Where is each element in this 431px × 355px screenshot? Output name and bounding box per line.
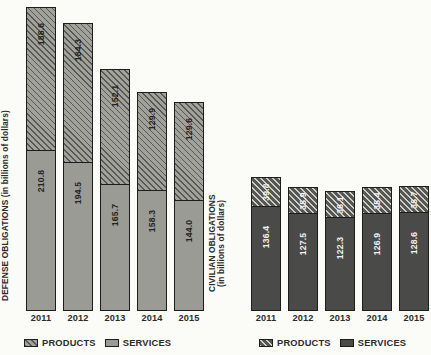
defense-legend: PRODUCTS SERVICES — [24, 336, 171, 349]
civilian-legend: PRODUCTS SERVICES — [259, 336, 406, 349]
bar-segment-services-2013: 165.7 — [100, 185, 130, 311]
bar-value-services-2013: 122.3 — [335, 237, 345, 260]
bar-value-services-2013: 165.7 — [110, 204, 120, 227]
bar-2012: 184.3194.5 — [63, 23, 93, 311]
bar-segment-services-2012: 194.5 — [63, 163, 93, 311]
defense-plot-area: 188.6210.8184.3194.5152.1165.7129.9158.3… — [26, 0, 204, 311]
bar-2011: 39.8136.4 — [251, 177, 281, 311]
bar-value-services-2015: 128.6 — [409, 232, 419, 255]
bar-segment-products-2013: 152.1 — [100, 69, 130, 185]
bar-value-products-2014: 129.9 — [147, 108, 157, 131]
bar-segment-services-2011: 210.8 — [26, 151, 56, 311]
bar-value-products-2013: 36.1 — [335, 196, 345, 214]
bar-segment-products-2015: 35.7 — [399, 186, 429, 213]
bar-segment-services-2013: 122.3 — [325, 218, 355, 311]
products-swatch-icon — [24, 339, 38, 347]
bar-value-services-2012: 194.5 — [73, 182, 83, 205]
bar-segment-services-2014: 158.3 — [137, 191, 167, 311]
x-label-2014: 2014 — [137, 313, 167, 323]
legend-label-services: SERVICES — [358, 338, 406, 348]
bar-2011: 188.6210.8 — [26, 7, 56, 311]
services-swatch-icon — [105, 339, 119, 347]
bar-value-products-2012: 35.9 — [298, 192, 308, 210]
bar-segment-products-2011: 39.8 — [251, 177, 281, 207]
legend-item-services: SERVICES — [105, 338, 171, 348]
bar-segment-products-2012: 35.9 — [288, 187, 318, 214]
civilian-y-axis-label-line2: (in billions of dollars) — [217, 176, 226, 310]
defense-chart-panel: DEFENSE OBLIGATIONS (in billions of doll… — [0, 0, 212, 355]
bar-2015: 129.6144.0 — [174, 102, 204, 311]
legend-label-products: PRODUCTS — [277, 338, 331, 348]
legend-label-products: PRODUCTS — [42, 338, 96, 348]
legend-item-products: PRODUCTS — [24, 338, 96, 348]
bar-segment-services-2015: 128.6 — [399, 213, 429, 311]
bar-2015: 35.7128.6 — [399, 186, 429, 311]
products-swatch-icon — [259, 339, 273, 347]
x-label-2013: 2013 — [100, 313, 130, 323]
x-label-2015: 2015 — [399, 313, 429, 323]
bar-value-products-2011: 188.6 — [36, 23, 46, 46]
bar-value-products-2015: 35.7 — [409, 191, 419, 209]
bar-2012: 35.9127.5 — [288, 187, 318, 311]
x-label-2011: 2011 — [26, 313, 56, 323]
legend-item-products: PRODUCTS — [259, 338, 331, 348]
legend-label-services: SERVICES — [123, 338, 171, 348]
bar-segment-products-2014: 35.4 — [362, 187, 392, 214]
bar-segment-services-2015: 144.0 — [174, 201, 204, 311]
civilian-y-axis-label: CIVILIAN OBLIGATIONS (in billions of dol… — [208, 176, 227, 310]
bar-2014: 129.9158.3 — [137, 92, 167, 311]
bar-value-services-2011: 210.8 — [36, 170, 46, 193]
bar-segment-services-2011: 136.4 — [251, 207, 281, 311]
bar-value-products-2011: 39.8 — [261, 183, 271, 201]
x-label-2012: 2012 — [288, 313, 318, 323]
bar-2014: 35.4126.9 — [362, 187, 392, 311]
bar-segment-products-2012: 184.3 — [63, 23, 93, 163]
services-swatch-icon — [340, 339, 354, 347]
bar-value-services-2014: 158.3 — [147, 210, 157, 233]
bar-segment-services-2012: 127.5 — [288, 214, 318, 311]
x-label-2011: 2011 — [251, 313, 281, 323]
bar-value-services-2014: 126.9 — [372, 233, 382, 256]
x-label-2013: 2013 — [325, 313, 355, 323]
bar-2013: 36.1122.3 — [325, 191, 355, 311]
bar-segment-services-2014: 126.9 — [362, 214, 392, 311]
bar-value-services-2011: 136.4 — [261, 226, 271, 249]
bar-segment-products-2015: 129.6 — [174, 102, 204, 201]
bar-value-services-2012: 127.5 — [298, 233, 308, 256]
civilian-x-axis-labels: 20112012201320142015 — [251, 313, 429, 327]
x-label-2012: 2012 — [63, 313, 93, 323]
defense-x-axis-labels: 20112012201320142015 — [26, 313, 204, 327]
bar-segment-products-2014: 129.9 — [137, 92, 167, 191]
bar-value-products-2012: 184.3 — [73, 39, 83, 62]
bar-value-products-2013: 152.1 — [110, 85, 120, 108]
bar-value-products-2015: 129.6 — [184, 118, 194, 141]
x-label-2014: 2014 — [362, 313, 392, 323]
civilian-plot-area: 39.8136.435.9127.536.1122.335.4126.935.7… — [251, 0, 429, 311]
defense-y-axis-label: DEFENSE OBLIGATIONS (in billions of doll… — [1, 100, 10, 312]
bar-value-services-2015: 144.0 — [184, 220, 194, 243]
x-label-2015: 2015 — [174, 313, 204, 323]
bar-segment-products-2013: 36.1 — [325, 191, 355, 218]
bar-value-products-2014: 35.4 — [372, 192, 382, 210]
legend-item-services: SERVICES — [340, 338, 406, 348]
bar-2013: 152.1165.7 — [100, 69, 130, 311]
bar-segment-products-2011: 188.6 — [26, 7, 56, 151]
